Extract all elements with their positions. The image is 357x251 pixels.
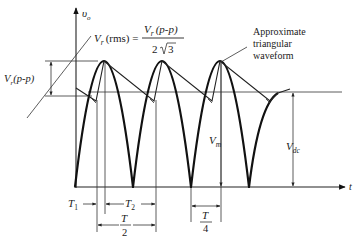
t2-label: T2 — [125, 197, 135, 212]
annotation-line-3: waveform — [253, 50, 294, 61]
svg-text:3: 3 — [168, 43, 174, 55]
t1-dimension: T1 — [68, 197, 96, 212]
formula-leader-line — [27, 36, 91, 118]
y-axis-label: υo — [82, 7, 91, 22]
annotation-leader-line — [221, 47, 247, 62]
quarter-period-denominator: 4 — [203, 223, 209, 234]
vr-pp-label: Vr(p-p) — [4, 73, 35, 87]
t-axis-label: t — [349, 181, 352, 192]
formula-numerator: Vr(p-p) — [144, 23, 178, 38]
t2-dimension: T2 — [106, 197, 155, 212]
quarter-period-dimension: T 4 — [192, 206, 220, 234]
formula-denominator: 2 — [152, 43, 158, 55]
t1-label: T1 — [68, 197, 78, 212]
half-period-numerator: T — [121, 212, 128, 224]
vdc-dimension: Vdc — [286, 93, 300, 186]
triangular-waveform-annotation: Approximate triangular waveform — [221, 26, 306, 62]
half-period-denominator: 2 — [122, 227, 127, 238]
timing-guides — [97, 62, 221, 232]
vm-dimension: Vm — [209, 62, 222, 186]
ripple-waveform-diagram: υo t Vr(p-p) Vm Vdc T1 — [0, 0, 357, 251]
annotation-line-2: triangular — [253, 38, 293, 49]
quarter-period-numerator: T — [202, 209, 209, 221]
vr-pp-dimension: Vr(p-p) — [4, 62, 51, 95]
vm-label: Vm — [209, 134, 222, 149]
half-period-dimension: T 2 — [98, 212, 155, 238]
formula-lhs: Vr(rms) = — [94, 32, 138, 47]
rectified-sine-wave — [75, 61, 278, 187]
triangular-ripple-waveform — [76, 61, 290, 101]
annotation-line-1: Approximate — [253, 26, 306, 37]
